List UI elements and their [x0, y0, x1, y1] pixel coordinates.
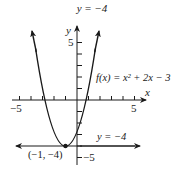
- chart-title-text: y = −4: [77, 2, 108, 14]
- tick-label-x-5: 5: [131, 102, 137, 114]
- chart-title: y = −4: [0, 0, 184, 16]
- x-axis-label: x: [144, 86, 150, 98]
- line-label: y = −4: [96, 131, 127, 142]
- tick-label-x-neg5: −5: [10, 102, 22, 114]
- vertex-point: [63, 144, 67, 148]
- y-axis-label: y: [65, 24, 71, 36]
- parabola-arrow-left: [32, 31, 36, 52]
- vertex-label: (−1, −4): [28, 149, 63, 161]
- tick-label-y-neg5: −5: [83, 151, 95, 163]
- plot-area: y x 5 −5 −5 5 f(x) = x² + 2x − 3 y = −4 …: [0, 0, 184, 175]
- graph-figure: y = −4: [0, 0, 184, 175]
- tick-label-y-5: 5: [68, 36, 74, 48]
- parabola-arrow-right: [95, 31, 99, 52]
- function-label: f(x) = x² + 2x − 3: [96, 72, 171, 84]
